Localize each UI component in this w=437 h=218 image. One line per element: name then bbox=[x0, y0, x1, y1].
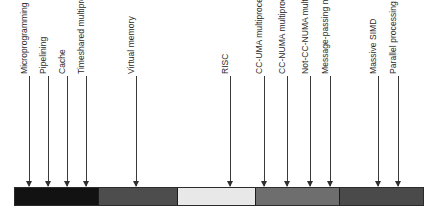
arrow-down-icon bbox=[284, 181, 290, 187]
arrow-line-icon bbox=[29, 76, 30, 186]
timeline-marker-label: Message-passing multiprocessor bbox=[321, 0, 330, 76]
arrow-line-icon bbox=[48, 76, 49, 186]
timeline-marker-label: Virtual memory bbox=[127, 16, 136, 76]
timeline-marker-label: CC-NUMA multiprocessor bbox=[278, 0, 287, 76]
timeline-segment-2 bbox=[99, 188, 179, 205]
timeline-marker-label: Pipelining bbox=[39, 37, 48, 76]
arrow-down-icon bbox=[327, 181, 333, 187]
timeline-segment-4 bbox=[256, 188, 341, 205]
timeline-segment-3 bbox=[178, 188, 256, 205]
arrow-line-icon bbox=[310, 76, 311, 186]
arrow-down-icon bbox=[375, 181, 381, 187]
timeline-bar bbox=[14, 187, 424, 206]
arrow-line-icon bbox=[230, 76, 231, 186]
arrow-line-icon bbox=[287, 76, 288, 186]
timeline-marker-label: Massive SIMD bbox=[369, 19, 378, 76]
arrow-down-icon bbox=[64, 181, 70, 187]
timeline-marker-label: Not-CC-NUMA multiprocessor bbox=[301, 0, 310, 76]
timeline-segment-1 bbox=[15, 188, 99, 205]
arrow-line-icon bbox=[378, 76, 379, 186]
timeline-segment-5 bbox=[340, 188, 423, 205]
timeline-marker-label: Timeshared multiprocessor bbox=[77, 0, 86, 76]
arrow-down-icon bbox=[83, 181, 89, 187]
arrow-down-icon bbox=[133, 181, 139, 187]
timeline-marker-label: Parallel processing multiprocessor bbox=[389, 0, 398, 76]
arrow-down-icon bbox=[45, 181, 51, 187]
arrow-line-icon bbox=[264, 76, 265, 186]
timeline-marker-label: RISC bbox=[221, 53, 230, 76]
arrow-down-icon bbox=[26, 181, 32, 187]
arrow-line-icon bbox=[67, 76, 68, 186]
arrow-line-icon bbox=[398, 76, 399, 186]
arrow-down-icon bbox=[307, 181, 313, 187]
timeline-figure: MicroprogrammingPipeliningCacheTimeshare… bbox=[0, 0, 437, 218]
timeline-marker-label: CC-UMA multiprocessor bbox=[255, 0, 264, 76]
arrow-line-icon bbox=[330, 76, 331, 186]
arrow-down-icon bbox=[395, 181, 401, 187]
timeline-marker-label: Cache bbox=[58, 49, 67, 76]
arrow-down-icon bbox=[227, 181, 233, 187]
arrow-line-icon bbox=[86, 76, 87, 186]
arrow-down-icon bbox=[261, 181, 267, 187]
timeline-marker-label: Microprogramming bbox=[20, 2, 29, 76]
arrow-line-icon bbox=[136, 76, 137, 186]
